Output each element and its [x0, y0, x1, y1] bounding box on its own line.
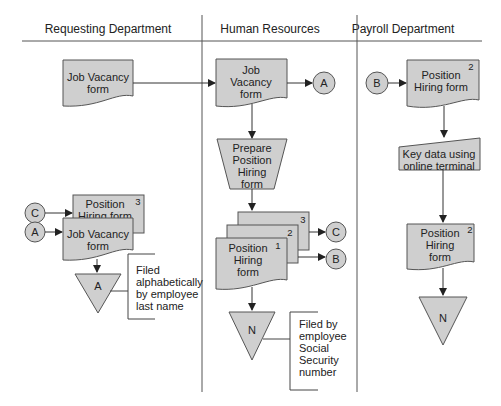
- doc-job-vacancy-form-hr: Job Vacancy form: [216, 59, 287, 107]
- svg-text:Hiring form: Hiring form: [414, 81, 468, 93]
- svg-text:Filed by: Filed by: [299, 318, 338, 330]
- svg-text:number: number: [299, 366, 337, 378]
- flowchart-canvas: Requesting Department Human Resources Pa…: [0, 0, 501, 406]
- svg-text:form: form: [241, 178, 263, 190]
- svg-text:A: A: [31, 226, 39, 238]
- copy-number: 3: [135, 196, 140, 207]
- svg-text:Filed: Filed: [136, 264, 160, 276]
- manual-input-key-data: Key data using online terminal: [399, 138, 480, 172]
- svg-text:Position: Position: [421, 69, 460, 81]
- connector-a-hr: A: [313, 72, 335, 94]
- svg-text:last name: last name: [136, 300, 184, 312]
- svg-text:C: C: [332, 226, 340, 238]
- svg-text:A: A: [320, 77, 328, 89]
- svg-text:N: N: [248, 324, 256, 336]
- svg-text:form: form: [237, 266, 259, 278]
- doc-position-hiring-form-payroll-bottom: 2 Position Hiring form: [407, 224, 474, 270]
- connector-b-hr: B: [326, 249, 346, 269]
- svg-text:form: form: [87, 83, 109, 95]
- swimlane-headers: Requesting Department Human Resources Pa…: [45, 22, 455, 36]
- file-a-requesting: A: [75, 274, 121, 313]
- svg-text:Job: Job: [242, 64, 260, 76]
- connector-c-hr: C: [326, 222, 346, 242]
- svg-text:3: 3: [300, 214, 305, 225]
- svg-text:Job Vacancy: Job Vacancy: [67, 71, 130, 83]
- svg-text:C: C: [31, 207, 39, 219]
- connector-a-requesting: A: [25, 222, 45, 242]
- lane-title-requesting: Requesting Department: [45, 22, 172, 36]
- svg-text:2: 2: [287, 227, 292, 238]
- doc-position-hiring-form-payroll-top: 2 Position Hiring form: [407, 60, 479, 107]
- svg-text:by employee: by employee: [136, 288, 198, 300]
- svg-text:Position: Position: [232, 154, 271, 166]
- svg-text:Hiring: Hiring: [426, 239, 455, 251]
- svg-text:employee: employee: [299, 330, 347, 342]
- svg-text:Prepare: Prepare: [232, 142, 271, 154]
- svg-text:Social: Social: [299, 342, 329, 354]
- connector-c-requesting: C: [25, 203, 45, 223]
- svg-text:alphabetically: alphabetically: [136, 276, 203, 288]
- annotation-hr: Filed by employee Social Security number: [263, 312, 347, 390]
- svg-text:form: form: [240, 88, 262, 100]
- connector-b-payroll: B: [366, 72, 388, 94]
- svg-text:Key data using: Key data using: [403, 148, 476, 160]
- doc-job-vacancy-form-requesting-top: Job Vacancy form: [63, 60, 133, 106]
- doc-stack-position-hiring-form: 3 2 1 Position Hiring form: [216, 212, 309, 289]
- lane-title-hr: Human Resources: [220, 22, 319, 36]
- file-n-hr: N: [229, 312, 275, 360]
- svg-text:B: B: [332, 253, 339, 265]
- svg-text:Job Vacancy: Job Vacancy: [67, 228, 130, 240]
- svg-text:form: form: [429, 251, 451, 263]
- copy-number: 2: [468, 61, 473, 72]
- svg-text:form: form: [87, 240, 109, 252]
- svg-text:1: 1: [275, 240, 280, 251]
- svg-text:N: N: [439, 312, 447, 324]
- file-n-payroll: N: [419, 297, 467, 345]
- svg-text:Vacancy: Vacancy: [230, 76, 272, 88]
- svg-text:B: B: [373, 77, 380, 89]
- svg-text:Position: Position: [228, 242, 267, 254]
- svg-text:Hiring: Hiring: [238, 166, 267, 178]
- svg-text:Position: Position: [420, 227, 459, 239]
- svg-text:A: A: [94, 280, 102, 292]
- manual-operation-prepare-form: Prepare Position Hiring form: [217, 139, 287, 190]
- svg-text:Security: Security: [299, 354, 339, 366]
- svg-text:Position: Position: [85, 198, 124, 210]
- svg-text:online terminal: online terminal: [403, 160, 475, 172]
- lane-title-payroll: Payroll Department: [352, 22, 455, 36]
- annotation-requesting: Filed alphabetically by employee last na…: [110, 254, 203, 319]
- doc-job-vacancy-form-requesting-bottom: Job Vacancy form: [63, 218, 133, 260]
- copy-number: 2: [467, 224, 472, 235]
- svg-text:Hiring: Hiring: [234, 254, 263, 266]
